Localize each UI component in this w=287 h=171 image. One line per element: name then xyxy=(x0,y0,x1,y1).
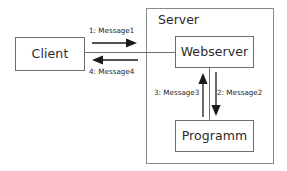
node-programm-label: Programm xyxy=(182,130,248,143)
message-label-4: 4: Message4 xyxy=(89,68,134,75)
message-label-3: 3: Message3 xyxy=(154,89,199,96)
node-client-label: Client xyxy=(32,48,69,61)
node-client[interactable]: Client xyxy=(15,37,85,71)
node-programm[interactable]: Programm xyxy=(175,120,254,152)
message-label-1: 1: Message1 xyxy=(89,27,134,34)
message-label-2: 2: Message2 xyxy=(217,89,262,96)
link-webserver-programm xyxy=(209,68,210,120)
container-server-label: Server xyxy=(158,14,199,27)
arrow-message1 xyxy=(92,38,138,48)
link-client-webserver xyxy=(85,52,175,53)
arrow-message3 xyxy=(198,73,208,117)
arrow-message4 xyxy=(92,55,138,65)
node-webserver[interactable]: Webserver xyxy=(175,36,254,68)
node-webserver-label: Webserver xyxy=(181,46,249,59)
communication-diagram: Server Client Webserver Programm xyxy=(0,0,287,171)
